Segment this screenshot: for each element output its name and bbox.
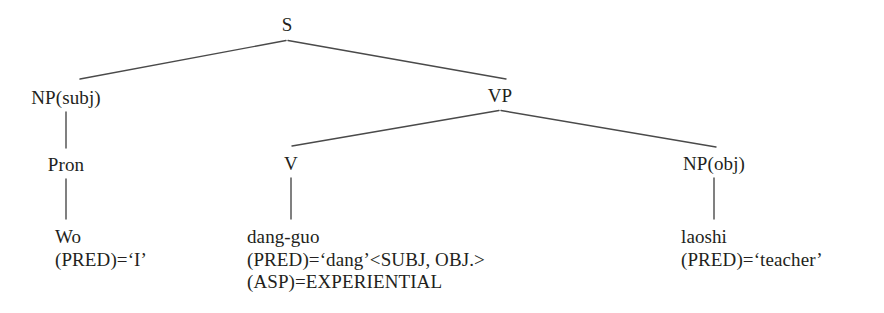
edge-vp-to-np-obj	[501, 111, 716, 148]
tree-leaf-dangguo-line-2: (PRED)=‘dang’<SUBJ, OBJ.>	[247, 249, 485, 272]
edge-s-to-vp	[288, 41, 506, 80]
tree-node-np-obj: NP(obj)	[683, 153, 745, 175]
syntax-tree-figure: S NP(subj) VP Pron V NP(obj) Wo (PRED)=‘…	[0, 0, 884, 313]
tree-node-vp: VP	[488, 85, 513, 107]
tree-leaf-laoshi-line-2: (PRED)=‘teacher’	[681, 249, 823, 272]
tree-leaf-dangguo-line-1: dang-guo	[247, 226, 485, 249]
tree-node-pron: Pron	[48, 154, 84, 176]
tree-leaf-wo-line-1: Wo	[55, 226, 147, 249]
tree-leaf-wo: Wo (PRED)=‘I’	[55, 226, 147, 271]
edge-s-to-np-subj	[80, 41, 286, 80]
tree-node-np-subj: NP(subj)	[31, 87, 100, 109]
edge-vp-to-v	[292, 111, 499, 147]
tree-node-s: S	[282, 14, 293, 36]
tree-leaf-laoshi-line-1: laoshi	[681, 226, 823, 249]
tree-leaf-dangguo: dang-guo (PRED)=‘dang’<SUBJ, OBJ.> (ASP)…	[247, 226, 485, 294]
tree-leaf-dangguo-line-3: (ASP)=EXPERIENTIAL	[247, 271, 485, 294]
tree-leaf-laoshi: laoshi (PRED)=‘teacher’	[681, 226, 823, 271]
tree-node-v: V	[284, 153, 298, 175]
tree-leaf-wo-line-2: (PRED)=‘I’	[55, 249, 147, 272]
